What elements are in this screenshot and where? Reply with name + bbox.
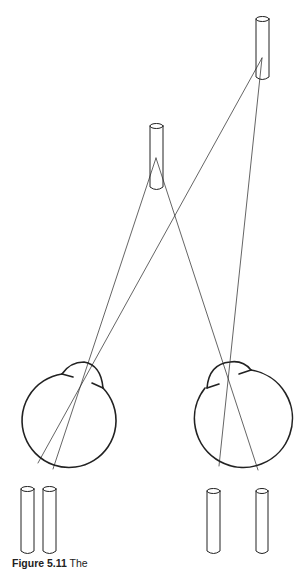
- near-rod: [150, 124, 163, 190]
- ray-near-left: [53, 158, 156, 469]
- ray-far-left: [38, 58, 262, 463]
- right-eye: [194, 362, 292, 468]
- caption-label: Figure 5.11: [12, 557, 67, 569]
- light-rays: [38, 58, 262, 470]
- caption-text: The: [70, 557, 88, 569]
- left-eye: [22, 362, 116, 467]
- figure-caption: Figure 5.11 The: [12, 557, 88, 569]
- retinal-images-right: [207, 489, 268, 554]
- ray-far-right: [219, 58, 262, 466]
- far-rod: [256, 17, 269, 80]
- ray-near-right: [156, 158, 258, 470]
- retinal-images-left: [21, 487, 56, 554]
